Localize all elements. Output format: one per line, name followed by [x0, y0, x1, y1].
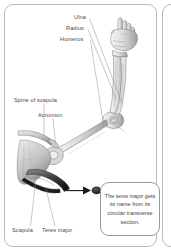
callout-text: The teres major gets its name from its c…	[101, 192, 159, 226]
teres-major-callout: The teres major gets its name from its c…	[100, 182, 160, 236]
label-scapula: Scapula	[12, 228, 33, 234]
label-humerus: Humerus	[60, 37, 83, 43]
label-teres-major: Teres major	[42, 228, 72, 234]
label-acromion: Acromion	[38, 113, 62, 119]
label-ulna: Ulna	[74, 15, 86, 21]
label-spine-of-scapula: Spine of scapula	[14, 98, 57, 104]
adjacent-panel	[162, 4, 171, 247]
label-radius: Radius	[66, 26, 84, 32]
anatomical-figure: Ulna Radius Humerus Spine of scapula Acr…	[0, 0, 171, 251]
